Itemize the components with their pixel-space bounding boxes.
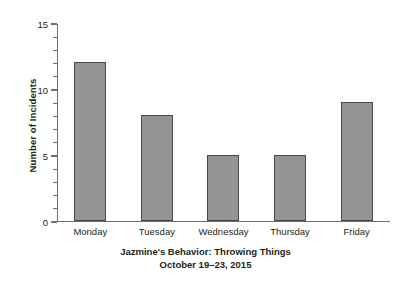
bar-chart-figure: Number of Incidents 051015 MondayTuesday… [0,0,411,283]
y-axis-tick-label: 0 [43,217,48,228]
bar-slot [257,24,324,221]
chart-title-line1: Jazmine's Behavior: Throwing Things [0,245,411,258]
bar-slot [190,24,257,221]
bar-tuesday [141,115,173,221]
x-axis-line [57,221,390,222]
x-axis-tick-label: Wednesday [190,226,257,237]
x-axis-tick-labels: MondayTuesdayWednesdayThursdayFriday [57,226,390,237]
x-axis-tick-label: Thursday [257,226,324,237]
x-axis-tick-label: Monday [57,226,124,237]
bar-wednesday [207,155,239,221]
bar-friday [341,102,373,221]
bar-thursday [274,155,306,221]
plot-area: 051015 [57,24,390,222]
bar-slot [323,24,390,221]
x-axis-tick-label: Tuesday [124,226,191,237]
bar-slot [124,24,191,221]
chart-title: Jazmine's Behavior: Throwing Things Octo… [0,245,411,271]
bar-series [57,24,390,221]
bar-slot [57,24,124,221]
bar-monday [74,62,106,220]
y-axis-tick-label: 15 [37,19,48,30]
y-axis-title: Number of Incidents [27,46,38,206]
y-axis-major-tick [51,221,57,222]
y-axis-tick-label: 5 [43,151,48,162]
y-axis-tick-label: 10 [37,85,48,96]
chart-title-line2: October 19–23, 2015 [0,258,411,271]
x-axis-tick-label: Friday [323,226,390,237]
